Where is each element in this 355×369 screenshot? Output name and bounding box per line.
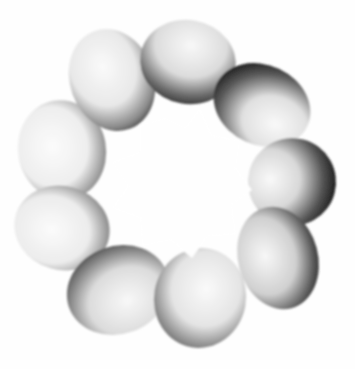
torus-render (0, 0, 355, 369)
twisted-torus-illustration (0, 0, 355, 369)
